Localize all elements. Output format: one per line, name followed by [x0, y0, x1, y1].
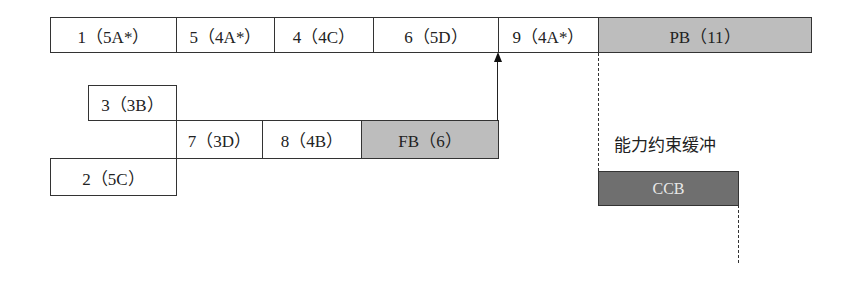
- task-9-box: 9（4A*）: [498, 17, 599, 53]
- task-6-label: 6（5D）: [404, 23, 467, 48]
- dashed-line-ccb-end: [738, 205, 739, 263]
- task-4-label: 4（4C）: [293, 23, 355, 48]
- feeding-arrow-line: [497, 58, 498, 121]
- task-8-label: 8（4B）: [281, 127, 343, 152]
- project-buffer-box: PB（11）: [598, 17, 812, 53]
- task-3-box: 3（3B）: [88, 85, 177, 121]
- task-2-box: 2（5C）: [50, 158, 177, 196]
- task-5-label: 5（4A*）: [190, 23, 262, 48]
- feeding-buffer-box: FB（6）: [361, 120, 499, 159]
- task-1-label: 1（5A*）: [78, 23, 150, 48]
- project-buffer-label: PB（11）: [669, 23, 740, 48]
- task-9-label: 9（4A*）: [513, 23, 585, 48]
- task-1-box: 1（5A*）: [50, 17, 177, 53]
- arrow-up-icon: [494, 52, 502, 62]
- capacity-buffer-title: 能力约束缓冲: [614, 131, 716, 156]
- task-8-box: 8（4B）: [262, 120, 362, 159]
- task-7-box: 7（3D）: [176, 120, 263, 159]
- capacity-buffer-box: CCB: [598, 171, 739, 206]
- feeding-buffer-label: FB（6）: [398, 127, 461, 152]
- capacity-buffer-label: CCB: [652, 180, 684, 198]
- task-3-label: 3（3B）: [101, 91, 163, 116]
- task-7-label: 7（3D）: [188, 127, 251, 152]
- task-2-label: 2（5C）: [82, 165, 144, 190]
- task-5-box: 5（4A*）: [176, 17, 275, 53]
- dashed-line-pb-start: [598, 53, 599, 171]
- task-6-box: 6（5D）: [373, 17, 499, 53]
- task-4-box: 4（4C）: [274, 17, 374, 53]
